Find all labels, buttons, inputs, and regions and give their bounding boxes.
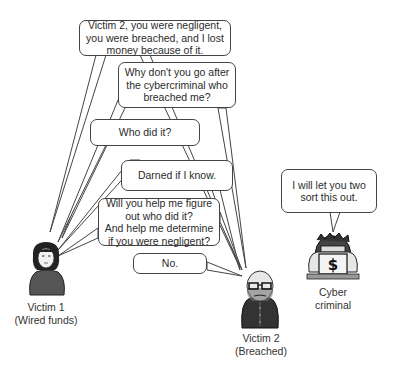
speech-bubble-darned: Darned if I know. [121, 160, 233, 191]
tail-b7 [330, 212, 340, 232]
speech-bubble-help-me: Will you help me figure out who did it? … [98, 198, 220, 246]
victim2-label: Victim 2 (Breached) [226, 332, 296, 357]
speech-bubble-go-after-cybercriminal: Why don't you go after the cybercriminal… [118, 62, 236, 108]
speech-bubble-who-did-it: Who did it? [90, 119, 200, 146]
bald-man-icon [236, 268, 284, 330]
speech-bubble-negligent: Victim 2, you were negligent, you were b… [79, 20, 231, 56]
woman-icon [22, 240, 72, 298]
dollar-sign-icon: $ [328, 256, 338, 274]
cybercriminal-laptop-icon: $ [305, 232, 361, 284]
speech-bubble-no: No. [133, 253, 207, 274]
speech-bubble-sort-out: I will let you two sort this out. [281, 169, 377, 213]
victim1-label: Victim 1 (Wired funds) [10, 301, 82, 326]
cybercriminal-label: Cyber criminal [300, 286, 366, 311]
diagram-canvas: Victim 2, you were negligent, you were b… [0, 0, 396, 370]
